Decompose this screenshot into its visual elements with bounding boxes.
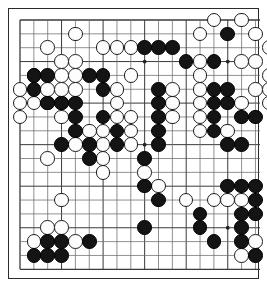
white-stone[interactable] [68,54,83,69]
white-stone[interactable] [68,234,83,249]
white-stone[interactable] [40,40,55,55]
black-stone[interactable] [207,234,222,249]
white-stone[interactable] [262,40,267,55]
black-stone[interactable] [137,151,152,166]
black-stone[interactable] [151,193,166,208]
black-stone[interactable] [54,137,69,152]
white-stone[interactable] [54,82,69,97]
black-stone[interactable] [248,193,263,208]
white-stone[interactable] [234,54,249,69]
white-stone[interactable] [165,82,180,97]
white-stone[interactable] [234,193,249,208]
white-stone[interactable] [262,82,267,97]
white-stone[interactable] [124,124,139,139]
black-stone[interactable] [165,40,180,55]
white-stone[interactable] [13,82,28,97]
white-stone[interactable] [262,96,267,111]
white-stone[interactable] [68,82,83,97]
black-stone[interactable] [248,248,263,263]
black-stone[interactable] [207,82,222,97]
black-stone[interactable] [96,82,111,97]
white-stone[interactable] [248,82,263,97]
white-stone[interactable] [193,82,208,97]
white-stone[interactable] [165,96,180,111]
black-stone[interactable] [220,137,235,152]
white-stone[interactable] [54,220,69,235]
white-stone[interactable] [234,248,249,263]
black-stone[interactable] [234,234,249,249]
black-stone[interactable] [151,96,166,111]
black-stone[interactable] [27,82,42,97]
black-stone[interactable] [68,110,83,125]
black-stone[interactable] [110,137,125,152]
white-stone[interactable] [124,68,139,83]
white-stone[interactable] [248,54,263,69]
white-stone[interactable] [54,110,69,125]
black-stone[interactable] [82,234,97,249]
white-stone[interactable] [193,54,208,69]
white-stone[interactable] [234,13,249,28]
black-stone[interactable] [68,96,83,111]
black-stone[interactable] [220,82,235,97]
black-stone[interactable] [82,151,97,166]
white-stone[interactable] [248,27,263,42]
black-stone[interactable] [151,137,166,152]
white-stone[interactable] [82,124,97,139]
white-stone[interactable] [234,96,249,111]
black-stone[interactable] [27,248,42,263]
black-stone[interactable] [68,124,83,139]
black-stone[interactable] [54,234,69,249]
white-stone[interactable] [262,68,267,83]
black-stone[interactable] [151,110,166,125]
black-stone[interactable] [248,207,263,222]
black-stone[interactable] [248,179,263,194]
black-stone[interactable] [82,68,97,83]
black-stone[interactable] [137,40,152,55]
black-stone[interactable] [234,207,249,222]
white-stone[interactable] [40,151,55,166]
black-stone[interactable] [207,54,222,69]
black-stone[interactable] [220,27,235,42]
white-stone[interactable] [40,82,55,97]
black-stone[interactable] [207,124,222,139]
go-board-screenshot [0,0,267,287]
black-stone[interactable] [96,68,111,83]
white-stone[interactable] [68,27,83,42]
white-stone[interactable] [54,54,69,69]
black-stone[interactable] [40,68,55,83]
white-stone[interactable] [27,234,42,249]
white-stone[interactable] [96,151,111,166]
white-stone[interactable] [110,40,125,55]
black-stone[interactable] [151,40,166,55]
white-stone[interactable] [40,220,55,235]
white-stone[interactable] [193,68,208,83]
white-stone[interactable] [165,110,180,125]
black-stone[interactable] [82,137,97,152]
black-stone[interactable] [27,68,42,83]
white-stone[interactable] [248,234,263,249]
black-stone[interactable] [234,137,249,152]
board-frame [8,8,259,279]
white-stone[interactable] [54,68,69,83]
white-stone[interactable] [96,165,111,180]
black-stone[interactable] [40,248,55,263]
white-stone[interactable] [220,124,235,139]
black-stone[interactable] [54,96,69,111]
black-stone[interactable] [40,234,55,249]
white-stone[interactable] [124,40,139,55]
black-stone[interactable] [234,220,249,235]
white-stone[interactable] [68,137,83,152]
black-stone[interactable] [54,248,69,263]
board-surface[interactable] [9,9,260,280]
white-stone[interactable] [137,165,152,180]
black-stone[interactable] [151,124,166,139]
white-stone[interactable] [151,179,166,194]
black-stone[interactable] [234,110,249,125]
black-stone[interactable] [248,110,263,125]
white-stone[interactable] [54,193,69,208]
white-stone[interactable] [110,82,125,97]
white-stone[interactable] [68,68,83,83]
black-stone[interactable] [151,82,166,97]
white-stone[interactable] [124,137,139,152]
black-stone[interactable] [137,220,152,235]
